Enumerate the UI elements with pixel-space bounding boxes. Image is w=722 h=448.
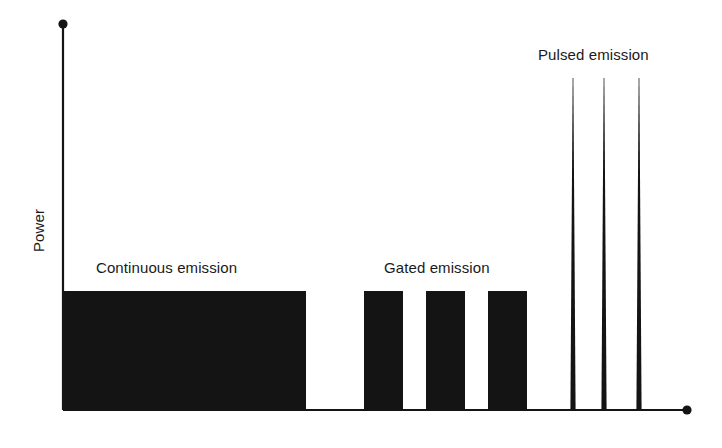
emission-marks-group (63, 78, 642, 410)
gated-emission-label: Gated emission (384, 259, 490, 276)
continuous-emission-label: Continuous emission (96, 259, 237, 276)
emission-spike (601, 78, 606, 410)
emission-block (426, 291, 465, 410)
y-axis-label: Power (30, 209, 47, 252)
pulsed-emission-label: Pulsed emission (538, 46, 649, 63)
x-axis-end-dot (682, 405, 691, 414)
y-axis-end-dot (58, 19, 67, 28)
emission-spike (570, 78, 575, 410)
emission-spike (636, 78, 641, 410)
emission-block (63, 291, 306, 410)
emission-modes-figure: Power Continuous emission Gated emission… (0, 0, 722, 448)
plot-canvas (0, 0, 722, 448)
emission-block (488, 291, 527, 410)
emission-block (364, 291, 403, 410)
